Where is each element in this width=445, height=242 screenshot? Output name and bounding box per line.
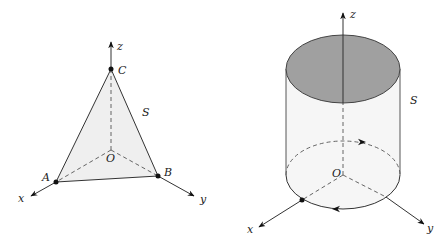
label-c: C [118,64,127,77]
y-axis [386,197,424,224]
label-z: z [116,40,123,53]
label-s: S [142,106,150,119]
x-axis [259,200,302,227]
label-o: O [106,152,115,165]
label-y: y [199,193,207,206]
label-y: y [426,222,434,235]
x-axis [31,182,56,196]
vertex-c [109,67,114,72]
boundary-point [300,198,305,203]
label-b: B [163,166,172,179]
label-o: O [332,167,341,180]
cylinder-figure: z S O x y [247,8,434,236]
label-s: S [410,94,418,107]
y-axis [158,176,194,196]
surface-s-face [56,69,158,182]
vertex-b [156,174,161,179]
diagram-canvas: z C S O A B x y z S O [0,0,445,242]
label-x: x [247,223,254,236]
label-z: z [349,8,356,21]
vertex-a [54,180,59,185]
label-a: A [41,171,50,184]
tetrahedron-figure: z C S O A B x y [18,40,207,206]
label-x: x [18,192,25,205]
